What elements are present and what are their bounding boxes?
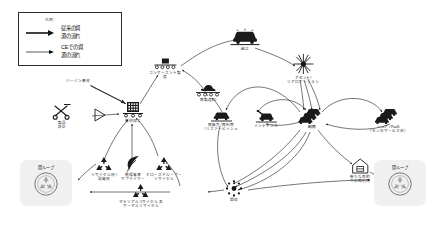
recycle-icon xyxy=(95,156,112,172)
node-closed-loop-recycle-label: クローズドループ・ リサイクル xyxy=(146,173,181,182)
node-asset-reallocation: アセット/ リアロケーション xyxy=(287,53,318,85)
node-remanufacturing: 再製造2.0 xyxy=(195,84,221,102)
legend-item-ce: CEでの資 源の流れ xyxy=(25,44,83,59)
node-share-paas: シェア / PaaS （モノのサービス化） xyxy=(368,108,407,134)
leaf-icon xyxy=(126,155,140,172)
node-usage: 利用 xyxy=(297,108,327,129)
node-collection-label: 回収 xyxy=(230,198,238,202)
car-side-icon xyxy=(210,110,232,122)
open-loop-left-title: 開ループ xyxy=(38,164,54,170)
node-share-paas-label: シェア / PaaS （モノのサービス化） xyxy=(368,125,407,134)
node-resale-reuse-refurbish-label: 再販売 / 再利用 / リファービッシュ xyxy=(205,123,238,132)
node-virgin-material: バージン素材 xyxy=(66,78,89,83)
play-triangle-icon xyxy=(94,108,107,122)
node-recycled-material-label: リサイクル材 / 副資材 xyxy=(91,173,116,182)
node-resale-reuse-refurbish: 再販売 / 再利用 / リファービッシュ xyxy=(205,110,238,132)
legend-box: 凡例: 従来の資 源の流れ CEでの資 源の流れ xyxy=(18,12,122,66)
node-assembly: 組立 xyxy=(230,28,260,51)
open-loop-left-box: 開ループ xyxy=(20,160,72,206)
node-usage-label: 利用 xyxy=(308,125,316,129)
node-product-design: 製品 設計 xyxy=(52,103,72,130)
recycle-icon xyxy=(133,183,150,199)
legend-label-conventional: 従来の資 源の流れ xyxy=(61,25,80,40)
car-fleet-icon xyxy=(373,108,403,124)
car-stack-icon xyxy=(297,108,327,124)
remanufacture-icon xyxy=(195,84,221,97)
node-asset-reallocation-label: アセット/ リアロケーション xyxy=(287,76,318,85)
node-collection: 回収 xyxy=(226,180,243,202)
node-closed-loop-recycle: クローズドループ・ リサイクル xyxy=(146,156,181,182)
node-circular-supplier: 循環資源 サプライヤー xyxy=(121,155,144,182)
node-remanufacturing-label: 再製造2.0 xyxy=(200,98,216,102)
car-assembly-icon xyxy=(230,28,260,46)
car-maintenance-icon xyxy=(255,110,277,123)
node-maintenance: メンテナンス xyxy=(254,110,277,128)
node-virgin-material-label: バージン素材 xyxy=(66,79,89,83)
node-circular-supplier-label: 循環資源 サプライヤー xyxy=(121,173,144,182)
factory-icon xyxy=(122,100,144,118)
node-maintenance-label: メンテナンス xyxy=(254,124,277,128)
legend-item-conventional: 従来の資 源の流れ xyxy=(25,25,80,40)
node-assembly-label: 組立 xyxy=(241,47,249,51)
thin-arrow-icon xyxy=(25,48,55,56)
legend-label-ce: CEでの資 源の流れ xyxy=(61,44,83,59)
collection-hub-icon xyxy=(226,180,243,197)
node-repurpose: 新たな目的 での再利用 xyxy=(350,158,370,184)
starburst-icon xyxy=(292,53,314,75)
node-component-manufacturing: コンポーネント製 造 xyxy=(149,58,180,80)
globe-recycle-icon xyxy=(387,171,413,197)
node-material-processing-label: 素材加工 xyxy=(125,119,141,123)
open-loop-right-box: 開ループ xyxy=(374,160,426,206)
node-recycled-material: リサイクル材 / 副資材 xyxy=(91,156,116,182)
node-product-design-label: 製品 設計 xyxy=(58,121,66,130)
node-repurpose-label: 新たな目的 での再利用 xyxy=(350,175,370,184)
node-material-thermal-recycle: マテリアルリサイクル 及 サーマルリサイクル xyxy=(119,183,163,209)
node-component-manufacturing-label: コンポーネント製 造 xyxy=(149,71,180,80)
diagram-canvas: 凡例: 従来の資 源の流れ CEでの資 源の流れ バージン素材 xyxy=(0,0,443,239)
node-material-processing: 素材加工 xyxy=(122,100,144,123)
thick-arrow-icon xyxy=(25,29,55,37)
design-tools-icon xyxy=(52,103,72,120)
legend-caption: 凡例: xyxy=(45,17,54,22)
globe-recycle-icon xyxy=(33,171,59,197)
node-material-thermal-recycle-label: マテリアルリサイクル 及 サーマルリサイクル xyxy=(119,200,163,209)
conveyor-icon xyxy=(153,58,177,70)
recycle-icon xyxy=(155,156,172,172)
open-loop-right-title: 開ループ xyxy=(392,164,408,170)
house-icon xyxy=(351,158,369,174)
